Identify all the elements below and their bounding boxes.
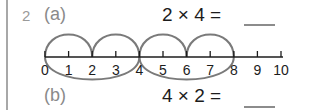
- tick-label: 6: [183, 62, 191, 78]
- tick-label: 8: [230, 62, 238, 78]
- tick-label: 9: [254, 62, 262, 78]
- tick-label: 5: [159, 62, 167, 78]
- tick-label: 0: [41, 62, 49, 78]
- tick-label: 2: [88, 62, 96, 78]
- number-line-labels: 012345678910: [41, 62, 289, 78]
- number-line-ticks: [45, 51, 281, 57]
- tick-label: 4: [136, 62, 144, 78]
- part-b-equation: 4 × 2 =: [162, 85, 221, 107]
- tick-label: 1: [65, 62, 73, 78]
- tick-label: 3: [112, 62, 120, 78]
- part-b-answer-blank[interactable]: [244, 106, 275, 108]
- tick-label: 10: [273, 62, 289, 78]
- part-b-label: (b): [44, 85, 66, 106]
- tick-label: 7: [206, 62, 214, 78]
